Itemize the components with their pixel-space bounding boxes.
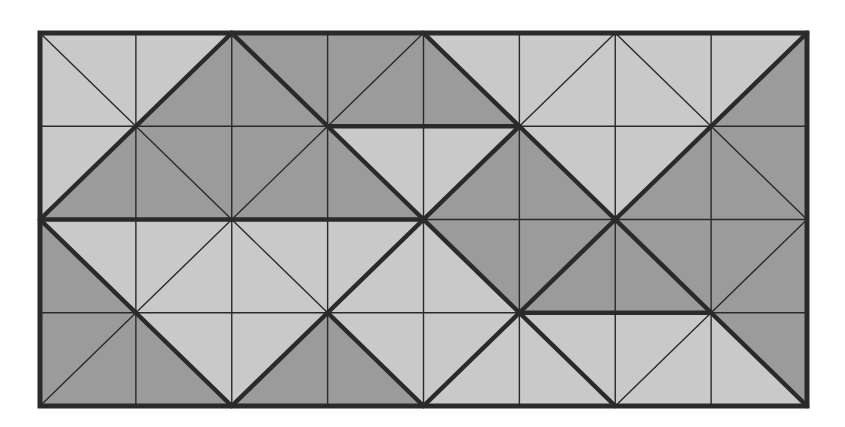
triangle-tiling-puzzle xyxy=(0,0,845,427)
puzzle-board xyxy=(0,0,845,427)
